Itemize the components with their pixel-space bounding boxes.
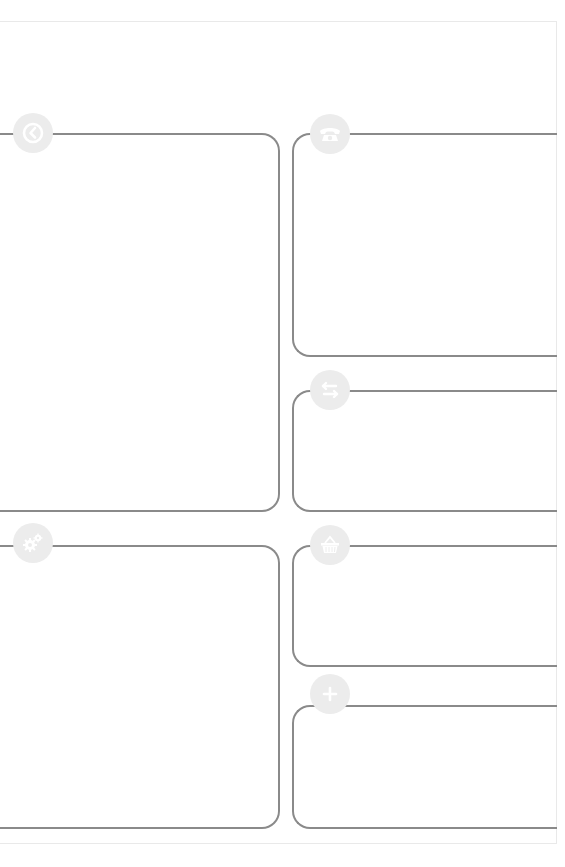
frame-top-line: [0, 21, 556, 22]
arrows-exchange-icon[interactable]: [310, 370, 350, 410]
plus-icon[interactable]: [310, 674, 350, 714]
panel-history: [0, 133, 280, 512]
telephone-icon[interactable]: [310, 114, 350, 154]
basket-icon[interactable]: [310, 525, 350, 565]
clock-back-icon[interactable]: [13, 113, 53, 153]
panel-add: [292, 705, 557, 829]
gears-icon[interactable]: [13, 523, 53, 563]
panel-contact: [292, 133, 557, 357]
panel-settings: [0, 545, 280, 829]
frame-bottom-line: [0, 843, 556, 844]
